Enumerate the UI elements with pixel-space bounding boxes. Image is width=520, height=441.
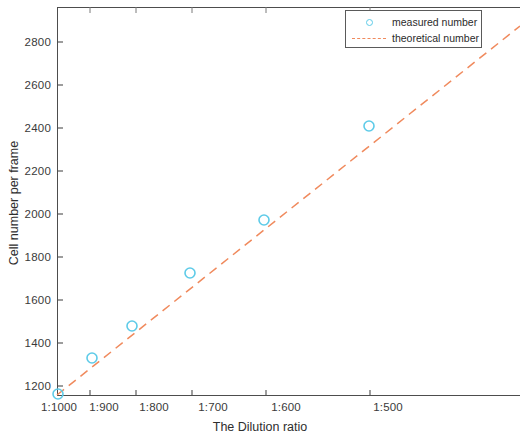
- y-tick-label: 1400: [25, 337, 51, 349]
- x-tick-label: 1:1000: [41, 401, 77, 413]
- figure-chart: 2800 2600 2400 2200 2000 1800 1600 1400 …: [0, 0, 520, 441]
- legend-item-theoretical: theoretical number: [346, 30, 481, 46]
- plot-area: [57, 7, 520, 396]
- dashed-line-icon: [346, 38, 392, 39]
- y-tick-label: 1800: [25, 251, 51, 263]
- legend-label: measured number: [392, 16, 477, 28]
- legend-label: theoretical number: [392, 32, 479, 44]
- x-tick-label: 1:800: [139, 401, 168, 413]
- y-tick-label: 2400: [25, 122, 51, 134]
- y-tick-label: 2800: [25, 36, 51, 48]
- y-tick-label: 1200: [25, 380, 51, 392]
- legend-item-measured: measured number: [346, 14, 481, 30]
- x-tick-label: 1:600: [271, 401, 300, 413]
- x-tick-label: 1:500: [373, 401, 402, 413]
- y-tick-label: 2200: [25, 165, 51, 177]
- y-tick-label: 1600: [25, 294, 51, 306]
- x-axis-label: The Dilution ratio: [0, 420, 520, 434]
- y-tick-label: 2600: [25, 79, 51, 91]
- chart-legend: measured number theoretical number: [345, 10, 482, 48]
- circle-marker-icon: [346, 19, 392, 26]
- y-tick-label: 2000: [25, 208, 51, 220]
- x-tick-label: 1:700: [198, 401, 227, 413]
- y-axis-label: Cell number per frame: [7, 103, 21, 303]
- x-tick-label: 1:900: [89, 401, 118, 413]
